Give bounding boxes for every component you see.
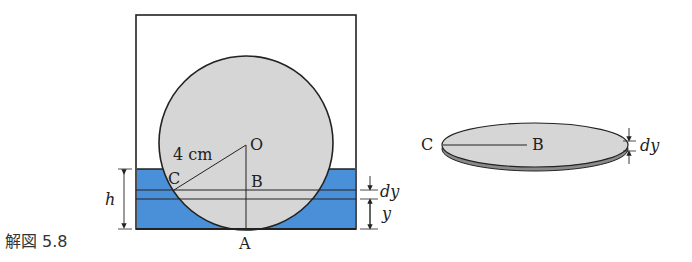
disk-point-c-label: C <box>421 135 433 154</box>
height-label: h <box>105 190 115 209</box>
y-label: y <box>381 204 392 223</box>
dy-label-left: dy <box>380 182 400 201</box>
point-b-label: B <box>251 172 263 191</box>
point-c-label: C <box>168 169 180 188</box>
point-a-label: A <box>238 234 251 253</box>
disk-point-b-label: B <box>532 135 544 154</box>
diagram-canvas: 4 cm O C B A h dy y 解図 5.8 C B dy <box>0 0 692 262</box>
dy-y-dimension <box>360 176 378 229</box>
disk-dy-label: dy <box>640 136 660 155</box>
center-o-label: O <box>250 135 263 154</box>
height-dimension <box>118 169 132 229</box>
radius-label: 4 cm <box>173 145 212 164</box>
figure-caption: 解図 5.8 <box>5 232 68 251</box>
